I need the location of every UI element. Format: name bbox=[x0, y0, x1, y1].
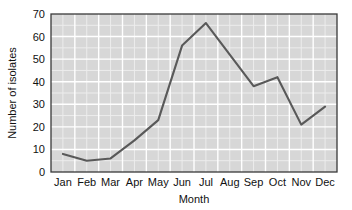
y-tick-label: 20 bbox=[33, 121, 45, 133]
y-tick-label: 50 bbox=[33, 53, 45, 65]
x-tick-label: Mar bbox=[101, 176, 120, 188]
y-tick-label: 30 bbox=[33, 98, 45, 110]
x-tick-label: Jul bbox=[199, 176, 213, 188]
x-tick-label: Feb bbox=[77, 176, 96, 188]
y-axis-title: Number of isolates bbox=[6, 47, 18, 139]
y-tick-label: 10 bbox=[33, 143, 45, 155]
x-tick-label: Nov bbox=[291, 176, 311, 188]
x-axis-title: Month bbox=[179, 193, 210, 205]
y-tick-label: 40 bbox=[33, 76, 45, 88]
y-tick-label: 70 bbox=[33, 8, 45, 20]
x-tick-label: Jun bbox=[173, 176, 191, 188]
line-chart-figure: 010203040506070 JanFebMarAprMayJunJulAug… bbox=[0, 0, 352, 210]
chart-canvas: 010203040506070 JanFebMarAprMayJunJulAug… bbox=[0, 0, 352, 210]
x-tick-label: May bbox=[148, 176, 169, 188]
x-tick-label: Sep bbox=[244, 176, 264, 188]
y-tick-label: 60 bbox=[33, 31, 45, 43]
x-tick-label: Oct bbox=[269, 176, 286, 188]
x-tick-label: Aug bbox=[220, 176, 240, 188]
y-tick-label: 0 bbox=[39, 166, 45, 178]
x-tick-label: Dec bbox=[315, 176, 335, 188]
x-tick-label: Jan bbox=[54, 176, 72, 188]
x-tick-label: Apr bbox=[126, 176, 143, 188]
